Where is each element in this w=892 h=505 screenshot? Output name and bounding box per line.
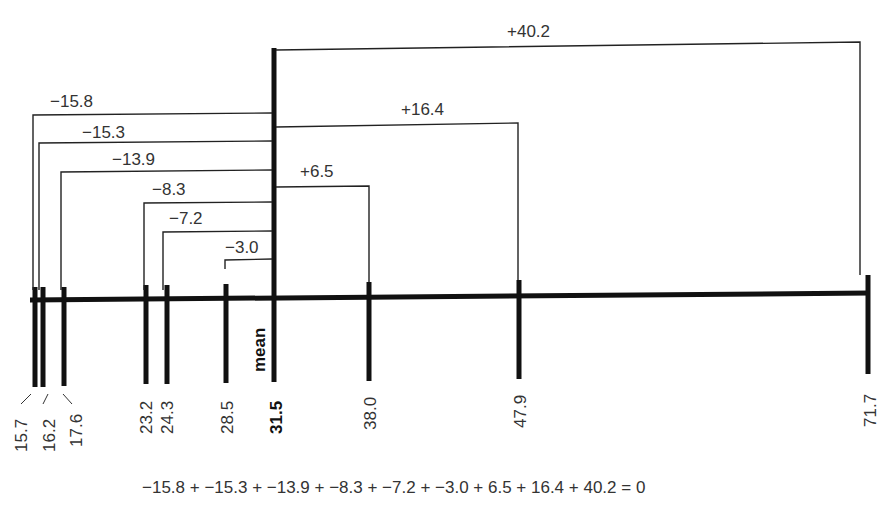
bracket-pos-6-5 bbox=[276, 186, 369, 282]
number-line bbox=[30, 293, 870, 300]
deviation-label: −15.8 bbox=[50, 92, 93, 111]
positive-brackets bbox=[276, 42, 860, 282]
deviation-label: −15.3 bbox=[82, 123, 125, 142]
negative-brackets bbox=[33, 113, 272, 290]
bracket-neg-3-0 bbox=[225, 259, 272, 269]
deviation-label: +6.5 bbox=[300, 162, 334, 181]
mean-label: mean bbox=[250, 328, 269, 372]
sum-equation: −15.8 + −15.3 + −13.9 + −8.3 + −7.2 + −3… bbox=[142, 478, 645, 497]
value-label: 15.7 bbox=[12, 419, 31, 452]
value-label: 24.3 bbox=[158, 401, 177, 434]
mean-value-label: 31.5 bbox=[267, 401, 286, 434]
bracket-pos-16-4 bbox=[276, 123, 518, 280]
value-label: 16.2 bbox=[40, 419, 59, 452]
leader-lines bbox=[21, 394, 72, 404]
value-label: 23.2 bbox=[137, 401, 156, 434]
deviation-label: −7.2 bbox=[169, 209, 203, 228]
value-label: 17.6 bbox=[67, 414, 86, 447]
deviation-label: −13.9 bbox=[112, 150, 155, 169]
value-label: 71.7 bbox=[861, 394, 880, 427]
value-label: 47.9 bbox=[511, 395, 530, 428]
deviation-label: +40.2 bbox=[507, 22, 550, 41]
value-label: 38.0 bbox=[361, 397, 380, 430]
bracket-neg-15-3 bbox=[39, 141, 272, 290]
bracket-pos-40-2 bbox=[276, 42, 860, 275]
deviation-label: −3.0 bbox=[225, 238, 259, 257]
value-label: 28.5 bbox=[218, 401, 237, 434]
deviation-label: +16.4 bbox=[401, 100, 444, 119]
bracket-neg-15-8 bbox=[33, 113, 272, 290]
deviation-diagram: −15.8 −15.3 −13.9 −8.3 −7.2 −3.0 +6.5 +1… bbox=[0, 0, 892, 505]
deviation-label: −8.3 bbox=[152, 180, 186, 199]
